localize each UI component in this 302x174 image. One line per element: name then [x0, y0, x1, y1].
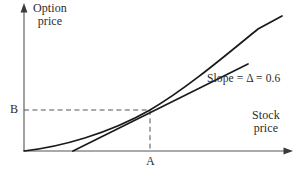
x-axis-tick-label-a: A [146, 155, 155, 168]
x-axis [24, 148, 293, 155]
y-axis-label: Option price [33, 2, 67, 28]
y-axis-label-line2: price [33, 15, 67, 28]
option-price-diagram: Option price Stock price Slope = Δ = 0.6… [0, 0, 302, 174]
x-axis-label-line1: Stock [252, 108, 280, 122]
x-axis-label-line2: price [252, 122, 280, 135]
y-axis-tick-label-b: B [10, 103, 18, 116]
x-axis-label: Stock price [252, 109, 280, 135]
slope-annotation: Slope = Δ = 0.6 [207, 72, 280, 85]
y-axis [21, 3, 28, 151]
y-axis-label-line1: Option [33, 1, 67, 15]
